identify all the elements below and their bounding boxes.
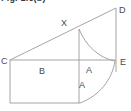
figure-container: Fig. 1.6(b) D X C E B A A [0, 0, 131, 111]
region-label-a-upper: A [86, 65, 92, 75]
vertex-label-x: X [61, 18, 67, 28]
vertex-label-e: E [120, 57, 126, 67]
vertex-label-d: D [119, 5, 126, 15]
region-label-a-lower: A [79, 80, 85, 90]
region-label-b: B [39, 66, 45, 76]
vertex-label-c: C [1, 56, 8, 66]
geometry-diagram: D X C E B A A [0, 0, 131, 111]
arc-x-to-bottom [79, 29, 115, 103]
line-c-to-d [10, 8, 116, 60]
